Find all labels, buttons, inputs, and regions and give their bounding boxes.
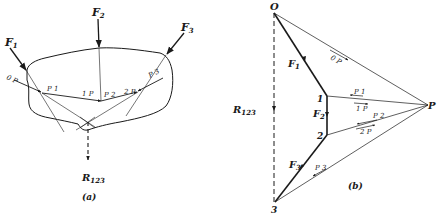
force-f3-arrow	[167, 33, 184, 54]
label-ray-p3: P 3	[314, 164, 327, 172]
funicular-polygon-figure: F1 F2 F3 0 P P 1 1 P P 2 2 P P 3 R123 (a…	[0, 0, 438, 217]
label-ray-1p: 1 P	[356, 105, 368, 113]
f2-arrowhead	[325, 112, 329, 117]
label-pole-p: P	[427, 100, 436, 111]
label-ray-p1: P 1	[353, 88, 365, 96]
label-resultant-r123: R123	[81, 172, 105, 185]
label-vertex-2: 2	[316, 131, 323, 141]
caption-a: (a)	[82, 192, 96, 202]
label-string-1p: 1 P	[82, 90, 94, 98]
ray-1p-direction-arrow	[354, 103, 368, 104]
label-string-0p: 0 P	[5, 74, 19, 86]
ray-2p	[327, 105, 428, 135]
panel-b-force-polygon: O 1 2 3 P F1 F2 F3 0 P P 1 1 P P 2 2 P P…	[232, 1, 436, 215]
resultant-arrowhead	[272, 106, 276, 111]
line-of-action-f2	[99, 48, 101, 101]
line-of-action-f1	[26, 70, 64, 132]
label-f2: F2	[91, 6, 105, 20]
label-vertex-1: 1	[317, 94, 323, 104]
label-f2-side: F2	[312, 108, 325, 121]
force-f1-arrow	[10, 48, 26, 70]
label-string-p2: P 2	[103, 91, 116, 99]
label-ray-2p: 2 P	[359, 128, 372, 136]
label-f3: F3	[180, 21, 194, 35]
force-f1-side	[274, 13, 327, 96]
label-vertex-o: O	[270, 1, 279, 12]
caption-b: (b)	[348, 181, 363, 191]
panel-a-space-diagram: F1 F2 F3 0 P P 1 1 P P 2 2 P P 3 R123 (a…	[4, 6, 194, 202]
label-ray-p2: P 2	[372, 112, 385, 120]
label-string-p1: P 1	[46, 85, 58, 93]
label-vertex-3: 3	[271, 205, 277, 215]
label-string-2p: 2 P	[123, 88, 136, 96]
force-f2-arrow	[98, 19, 99, 47]
ray-1p	[327, 96, 428, 105]
label-string-p3: P 3	[146, 67, 161, 80]
label-f3-side: F3	[288, 159, 301, 172]
ray-0p	[274, 13, 428, 105]
label-f1-side: F1	[287, 58, 300, 71]
label-resultant-r123-b: R123	[232, 104, 256, 117]
line-of-action-f3	[126, 55, 166, 116]
label-f1: F1	[4, 36, 18, 50]
